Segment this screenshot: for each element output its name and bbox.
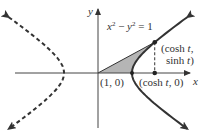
hyperbola-diagram: y x x2 − y2 = 1 (cosh t, sinh t) (1, 0) … <box>0 0 205 135</box>
point-on-curve-label-line2: sinh t) <box>166 54 194 67</box>
vertex-dot <box>130 71 134 75</box>
y-axis-label: y <box>87 5 93 17</box>
vertex-label: (1, 0) <box>100 76 124 89</box>
x-axis-label: x <box>192 75 198 87</box>
point-on-axis-label: (cosh t, 0) <box>139 76 184 89</box>
equation-label: x2 − y2 = 1 <box>106 20 153 32</box>
point-on-axis-dot <box>152 71 157 76</box>
point-on-curve-dot <box>152 40 157 45</box>
